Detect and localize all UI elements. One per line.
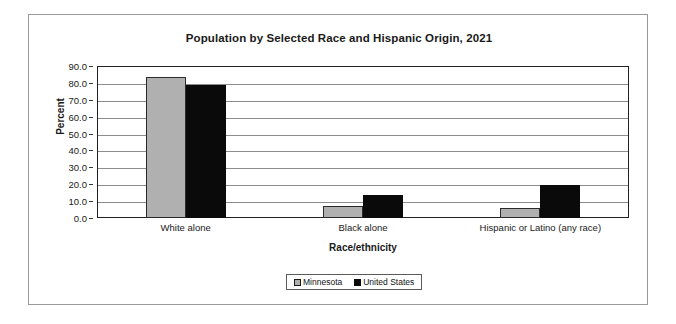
y-axis-tick-label: 90.0 (69, 61, 88, 72)
x-axis-tick-label: White alone (161, 222, 211, 233)
legend-swatch-icon (354, 279, 361, 286)
y-axis-tick-label: 20.0 (69, 179, 88, 190)
gridline (98, 185, 628, 186)
y-axis-tick-label: 80.0 (69, 77, 88, 88)
y-axis-tick (89, 218, 93, 219)
y-axis-tick-label: 60.0 (69, 111, 88, 122)
y-axis-tick (89, 117, 93, 118)
y-axis-tick-label: 30.0 (69, 162, 88, 173)
gridline (98, 101, 628, 102)
x-axis-tick-labels: White aloneBlack aloneHispanic or Latino… (97, 222, 629, 238)
y-axis-tick-label: 70.0 (69, 94, 88, 105)
y-axis-tick-label: 50.0 (69, 128, 88, 139)
gridline (98, 151, 628, 152)
gridlines (98, 67, 628, 217)
y-axis-tick (89, 184, 93, 185)
y-axis-tick-label: 0.0 (74, 213, 87, 224)
gridline (98, 84, 628, 85)
gridline (98, 118, 628, 119)
legend-swatch-icon (294, 279, 301, 286)
legend-label: United States (363, 277, 414, 287)
y-axis-tick-labels: 0.010.020.030.040.050.060.070.080.090.0 (29, 66, 93, 218)
y-axis-tick (89, 150, 93, 151)
y-axis-tick (89, 100, 93, 101)
chart-legend: MinnesotaUnited States (286, 274, 422, 290)
gridline (98, 135, 628, 136)
gridline (98, 202, 628, 203)
x-axis-tick-label: Black alone (338, 222, 387, 233)
plot-area (97, 66, 629, 218)
y-axis-tick (89, 134, 93, 135)
y-axis-tick (89, 167, 93, 168)
y-axis-tick (89, 83, 93, 84)
legend-entry: Minnesota (294, 277, 342, 287)
chart-figure: Population by Selected Race and Hispanic… (28, 14, 648, 305)
y-axis-tick (89, 66, 93, 67)
legend-label: Minnesota (303, 277, 342, 287)
y-axis-tick (89, 201, 93, 202)
gridline (98, 168, 628, 169)
x-axis-title: Race/ethnicity (97, 242, 629, 253)
y-axis-tick-label: 10.0 (69, 196, 88, 207)
legend-entry: United States (354, 277, 414, 287)
chart-title: Population by Selected Race and Hispanic… (29, 32, 649, 44)
x-axis-tick-label: Hispanic or Latino (any race) (480, 222, 601, 233)
y-axis-tick-label: 40.0 (69, 145, 88, 156)
